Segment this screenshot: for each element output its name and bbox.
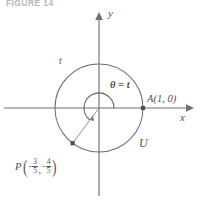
y-numerator: 4: [46, 158, 52, 166]
arc-length-label: t: [59, 56, 62, 66]
x-denominator: 5: [32, 167, 38, 175]
y-axis-label: y: [108, 7, 113, 19]
unit-circle-label: U: [139, 136, 148, 151]
point-p-dot: [71, 141, 75, 145]
point-p-x-coordinate: - 3 5: [29, 158, 38, 175]
point-p-y-coordinate: - 4 5: [42, 158, 51, 175]
y-denominator: 5: [46, 167, 52, 175]
y-fraction: 4 5: [46, 158, 52, 175]
figure-container: FIGURE 14 y x t θ = t A(1, 0) U P (: [0, 0, 201, 203]
point-a-dot: [141, 106, 145, 110]
point-a-label: A(1, 0): [147, 93, 176, 104]
x-axis-arrow-icon: [186, 104, 194, 112]
radius-to-p-line: [73, 108, 99, 143]
x-axis-label: x: [180, 111, 185, 123]
coordinate-comma: ,: [39, 164, 42, 176]
left-paren: (: [23, 157, 28, 176]
x-numerator: 3: [32, 158, 38, 166]
right-paren: ): [52, 157, 57, 176]
x-fraction: 3 5: [32, 158, 38, 175]
point-p-label: P ( - 3 5 , - 4 5 ): [15, 157, 58, 176]
point-p-letter: P: [15, 161, 21, 172]
angle-label: θ = t: [110, 79, 130, 90]
y-axis-arrow-icon: [95, 12, 103, 20]
